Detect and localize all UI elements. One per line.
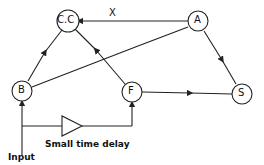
diagram-graphics bbox=[0, 0, 264, 165]
edge-x-label: X bbox=[109, 7, 116, 18]
delay-triangle-icon bbox=[62, 116, 82, 136]
edge-f-s bbox=[142, 92, 190, 93]
node-a-label: A bbox=[194, 14, 201, 25]
edge-b-cc bbox=[28, 52, 45, 81]
input-label: Input bbox=[8, 152, 35, 162]
edge-f-cc bbox=[96, 50, 125, 84]
node-s-label: S bbox=[238, 87, 244, 98]
node-b-label: B bbox=[18, 84, 25, 95]
node-cc-label: C.C bbox=[57, 14, 74, 25]
delay-label: Small time delay bbox=[45, 139, 130, 149]
diagram: C.C A B F S X Small time delay Input bbox=[0, 0, 264, 165]
edge-a-s bbox=[204, 31, 222, 60]
node-f-label: F bbox=[128, 85, 134, 96]
